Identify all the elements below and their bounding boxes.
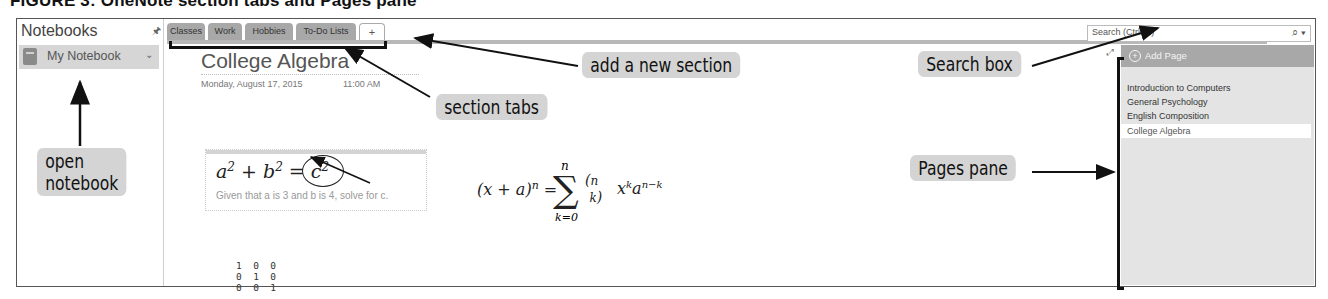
annotation-arrows [0,0,1328,299]
